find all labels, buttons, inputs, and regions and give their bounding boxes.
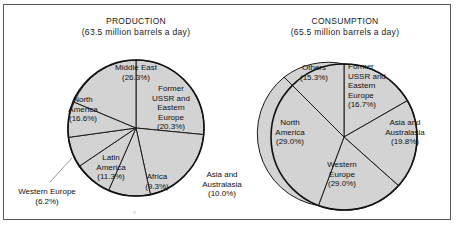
label-latin-america-line2: America — [83, 163, 139, 173]
label-former-ussr-line3: Eastern — [143, 103, 199, 113]
label-former-ussr-line4: Europe — [143, 113, 199, 123]
western-europe-leader-line — [50, 158, 72, 182]
label-north-america-line2: America — [55, 105, 111, 115]
label-western-europe-c-percent: (29.0%) — [314, 179, 370, 189]
label-western-europe-c-line2: Europe — [314, 170, 370, 180]
label-western-europe-name: Western Europe — [4, 187, 90, 197]
label-former-ussr-line2: USSR and — [143, 94, 199, 104]
consumption-pie-svg — [240, 0, 456, 227]
label-africa-name: Africa — [133, 172, 181, 182]
label-former-ussr-percent: (20.3%) — [143, 122, 199, 132]
label-former-ussr-consumption: Former USSR and Eastern Europe (16.7%) — [348, 62, 402, 110]
label-latin-america-percent: (11.3%) — [83, 172, 139, 182]
label-north-america-production: North America (16.6%) — [55, 95, 111, 124]
label-middle-east: Middle East (26.3%) — [98, 63, 174, 82]
label-former-ussr-c-line1: Former — [348, 62, 402, 72]
label-africa: Africa (9.3%) — [133, 172, 181, 191]
label-asia-c-percent: (19.8%) — [372, 137, 438, 147]
label-western-europe-c-line1: Western — [314, 160, 370, 170]
label-africa-percent: (9.3%) — [133, 182, 181, 192]
scan-artifact — [133, 211, 136, 214]
label-north-america-c-percent: (29.0%) — [262, 137, 318, 147]
label-western-europe-production: Western Europe (6.2%) — [4, 187, 90, 206]
label-former-ussr-c-line3: Eastern — [348, 81, 402, 91]
label-former-ussr-c-line2: USSR and — [348, 72, 402, 82]
label-north-america-c-line1: North — [262, 118, 318, 128]
label-former-ussr-line1: Former — [143, 84, 199, 94]
label-former-ussr-production: Former USSR and Eastern Europe (20.3%) — [143, 84, 199, 132]
label-former-ussr-c-line4: Europe — [348, 91, 402, 101]
label-latin-america: Latin America (11.3%) — [83, 153, 139, 182]
label-middle-east-name: Middle East — [98, 63, 174, 73]
label-others-percent: (15.3%) — [287, 73, 341, 83]
label-north-america-percent: (16.6%) — [55, 114, 111, 124]
label-asia-c-line2: Australasia — [372, 128, 438, 138]
label-western-europe-consumption: Western Europe (29.0%) — [314, 160, 370, 189]
label-middle-east-percent: (26.3%) — [98, 73, 174, 83]
label-north-america-consumption: North America (29.0%) — [262, 118, 318, 147]
label-latin-america-line1: Latin — [83, 153, 139, 163]
label-asia-australasia-consumption: Asia and Australasia (19.8%) — [372, 118, 438, 147]
oil-production-consumption-figure: PRODUCTION (63.5 million barrels a day) … — [0, 0, 456, 227]
label-north-america-line1: North — [55, 95, 111, 105]
label-western-europe-percent: (6.2%) — [4, 197, 90, 207]
label-north-america-c-line2: America — [262, 128, 318, 138]
label-others: Others (15.3%) — [287, 63, 341, 82]
label-asia-c-line1: Asia and — [372, 118, 438, 128]
label-others-name: Others — [287, 63, 341, 73]
label-former-ussr-c-percent: (16.7%) — [348, 100, 402, 110]
